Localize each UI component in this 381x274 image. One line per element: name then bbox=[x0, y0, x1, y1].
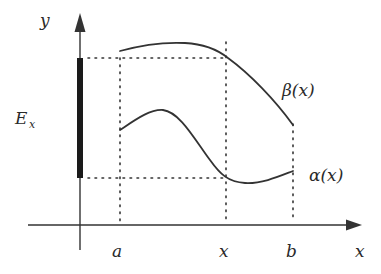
set-ex-label-main: E bbox=[14, 108, 28, 128]
tick-label-x: x bbox=[219, 241, 229, 261]
alpha-curve-label: α(x) bbox=[309, 165, 343, 185]
y-axis-arrowhead-icon bbox=[75, 13, 86, 32]
tick-label-a: a bbox=[112, 241, 122, 261]
set-ex-bar bbox=[77, 58, 83, 178]
alpha-curve bbox=[120, 110, 293, 183]
x-axis bbox=[28, 220, 362, 231]
region-between-curves-diagram: y E x a x b x β(x) α(x) bbox=[0, 0, 381, 274]
beta-curve-label: β(x) bbox=[281, 80, 315, 100]
beta-curve bbox=[120, 43, 293, 125]
x-axis-arrowhead-icon bbox=[346, 220, 362, 231]
y-axis-label: y bbox=[39, 10, 50, 30]
tick-label-b: b bbox=[286, 241, 297, 261]
x-axis-label: x bbox=[355, 241, 365, 261]
set-ex-label-sub: x bbox=[29, 118, 36, 131]
